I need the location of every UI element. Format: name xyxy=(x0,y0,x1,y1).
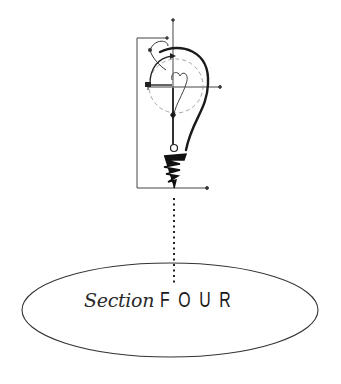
dashed-circle xyxy=(149,59,203,113)
section-divider-page: Section FOUR xyxy=(0,0,341,384)
lightbulb-diagram-icon xyxy=(0,0,341,384)
bulb-outline xyxy=(160,48,208,150)
filament-heart xyxy=(172,73,188,114)
section-word: Section xyxy=(84,289,154,311)
section-title: Section FOUR xyxy=(84,287,271,317)
stem-circle xyxy=(171,145,178,152)
section-number: FOUR xyxy=(160,287,239,313)
screw-base xyxy=(164,154,186,188)
